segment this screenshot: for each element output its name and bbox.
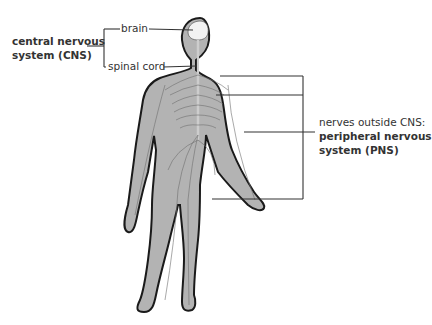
cns-label-line1: central nervous <box>12 35 105 48</box>
pns-caption: nerves outside CNS: <box>319 116 425 129</box>
cns-label-line2: system (CNS) <box>12 49 92 62</box>
spinal-cord-label: spinal cord <box>108 60 165 73</box>
pns-label-line1: peripheral nervous <box>319 130 432 143</box>
brain-label: brain <box>121 22 148 35</box>
pns-label-line2: system (PNS) <box>319 144 399 157</box>
